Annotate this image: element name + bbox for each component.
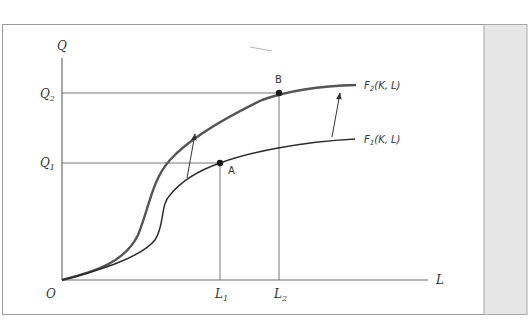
- origin-label: O: [46, 287, 56, 301]
- x-axis-label: L: [435, 273, 444, 287]
- point-a-marker: [217, 160, 223, 166]
- figure-frame: [3, 25, 493, 315]
- point-b-label: B: [275, 74, 282, 85]
- y-axis-label: Q: [57, 39, 67, 53]
- sidebar-strip: [484, 25, 527, 315]
- point-a-label: A: [228, 165, 235, 176]
- point-b-marker: [276, 90, 282, 96]
- production-function-diagram: Q L O Q2 Q1 L1 L2 A B F2(K, L) F1(K, L): [0, 0, 532, 332]
